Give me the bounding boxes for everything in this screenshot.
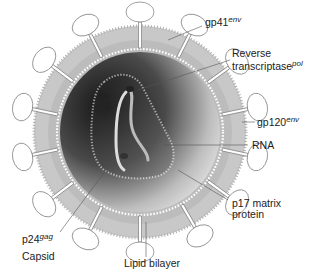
label-p24: p24gag Capsid [22,234,55,262]
label-p17-line2: protein [232,209,281,220]
label-rna: RNA [252,140,274,151]
label-p24-text: p24 [22,233,40,245]
label-lipid-bilayer: Lipid bilayer [124,258,180,269]
label-gp120-sup: env [286,115,299,124]
label-reverse-transcriptase: Reverse transcriptasepol [232,48,303,72]
label-p24-sup: gag [40,232,53,241]
label-gp120-text: gp120 [257,116,286,128]
label-rt-sup: pol [292,59,303,68]
label-p17: p17 matrix protein [232,198,281,220]
label-capsid: Capsid [22,251,55,262]
label-gp120: gp120env [257,117,299,128]
label-gp41-sup: env [228,15,241,24]
label-rt-line1: Reverse [232,48,303,59]
label-gp41-text: gp41 [205,16,228,28]
label-gp41: gp41env [205,17,241,28]
label-rt-base: transcriptase [232,60,292,72]
